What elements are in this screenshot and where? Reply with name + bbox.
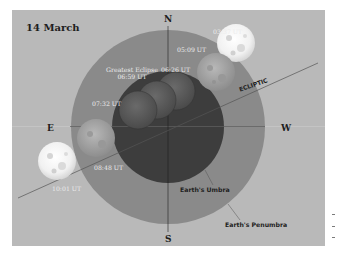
moon-08-48 <box>77 119 115 157</box>
moon-10-01 <box>38 142 76 180</box>
time-label-07-32: 07:32 UT <box>92 100 121 107</box>
time-label-05-09: 05:09 UT <box>177 46 206 53</box>
margin-tick <box>332 237 335 238</box>
umbra-label: Earth's Umbra <box>180 186 230 193</box>
south-label: S <box>165 235 172 244</box>
moon-07-32 <box>119 91 157 129</box>
greatest-eclipse-label: Greatest Eclipse 06:59 UT <box>101 66 163 80</box>
margin-tick <box>332 214 335 215</box>
moon-05-09 <box>197 53 235 91</box>
time-label-10-01: 10:01 UT <box>52 185 81 192</box>
time-label-03-37: 03:37 UT <box>213 28 242 35</box>
penumbra-label: Earth's Penumbra <box>225 221 287 228</box>
time-label-08-48: 08:48 UT <box>94 164 123 171</box>
penumbra-leader-line <box>228 204 240 220</box>
margin-tick <box>332 226 335 227</box>
east-label: E <box>47 124 54 133</box>
time-label-06-26: 06:26 UT <box>161 66 190 73</box>
greatest-eclipse-time: 06:59 UT <box>101 73 163 80</box>
west-label: W <box>281 124 291 133</box>
eclipse-date-title: 14 March <box>26 22 80 33</box>
greatest-eclipse-title: Greatest Eclipse <box>101 66 163 73</box>
north-label: N <box>164 15 172 24</box>
